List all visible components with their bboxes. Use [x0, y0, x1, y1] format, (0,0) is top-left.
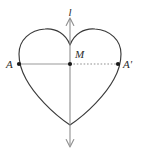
- label-point-A-prime: A': [122, 58, 133, 70]
- point-A-prime-marker: [116, 62, 120, 66]
- figure-canvas: l M A A': [0, 0, 143, 154]
- label-point-A: A: [5, 58, 13, 70]
- label-point-M: M: [74, 48, 85, 60]
- label-axis-l: l: [68, 6, 71, 18]
- point-M-marker: [68, 62, 72, 66]
- geometry-figure: l M A A': [0, 0, 143, 154]
- point-A-marker: [17, 62, 21, 66]
